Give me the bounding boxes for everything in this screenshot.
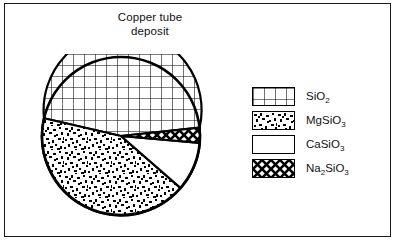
legend-label-na2sio3: Na2SiO3 bbox=[306, 162, 349, 174]
legend-swatch-casio3 bbox=[252, 135, 295, 154]
legend-item-sio2: SiO2 bbox=[252, 84, 388, 108]
legend-item-mgsio3: MgSiO3 bbox=[252, 108, 388, 132]
pie-chart bbox=[40, 54, 204, 220]
speckle-pattern-icon bbox=[253, 112, 294, 129]
chart-title: Copper tube deposit bbox=[0, 10, 300, 38]
solid-white-pattern-icon bbox=[253, 136, 294, 153]
diagonal-crosshatch-pattern-icon bbox=[253, 160, 294, 177]
grid-pattern-icon bbox=[253, 88, 294, 105]
legend-item-casio3: CaSiO3 bbox=[252, 132, 388, 156]
legend-label-sio2: SiO2 bbox=[306, 90, 330, 102]
legend-swatch-sio2 bbox=[252, 87, 295, 106]
legend-swatch-na2sio3 bbox=[252, 159, 295, 178]
legend-item-na2sio3: Na2SiO3 bbox=[252, 156, 388, 180]
figure-canvas: Copper tube deposit bbox=[0, 0, 396, 242]
legend-label-casio3: CaSiO3 bbox=[306, 138, 344, 150]
pie-chart-svg bbox=[40, 54, 204, 220]
legend-label-mgsio3: MgSiO3 bbox=[306, 114, 346, 126]
legend-swatch-mgsio3 bbox=[252, 111, 295, 130]
legend: SiO2 MgSiO3 CaSiO3 N bbox=[252, 84, 388, 180]
